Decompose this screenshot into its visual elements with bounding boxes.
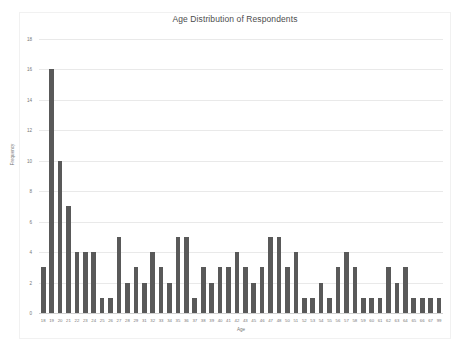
- x-tick-label-62: 62: [384, 316, 392, 325]
- bar-age-51: [294, 252, 299, 313]
- x-tick-label-26: 26: [106, 316, 114, 325]
- y-tick-label-4: 4: [29, 250, 32, 255]
- bar-slot: [435, 39, 443, 313]
- bar-slot: [140, 39, 148, 313]
- bar-age-59: [361, 298, 366, 313]
- bar-slot: [367, 39, 375, 313]
- bar-slot: [207, 39, 215, 313]
- x-tick-label-65: 65: [410, 316, 418, 325]
- bar-age-37: [192, 298, 197, 313]
- x-tick-label-51: 51: [292, 316, 300, 325]
- x-tick-label-55: 55: [325, 316, 333, 325]
- bar-slot: [73, 39, 81, 313]
- bar-series: [39, 39, 443, 313]
- bar-age-66: [420, 298, 425, 313]
- bar-age-19: [49, 69, 54, 313]
- bar-slot: [90, 39, 98, 313]
- x-tick-label-25: 25: [98, 316, 106, 325]
- bar-age-56: [336, 267, 341, 313]
- x-tick-label-56: 56: [334, 316, 342, 325]
- bar-slot: [123, 39, 131, 313]
- bar-slot: [292, 39, 300, 313]
- bar-age-48: [277, 237, 282, 313]
- bar-age-28: [125, 283, 130, 313]
- x-tick-label-34: 34: [165, 316, 173, 325]
- x-tick-label-52: 52: [300, 316, 308, 325]
- x-tick-label-29: 29: [132, 316, 140, 325]
- x-tick-label-19: 19: [47, 316, 55, 325]
- bar-slot: [224, 39, 232, 313]
- bar-age-45: [251, 283, 256, 313]
- x-tick-label-31: 31: [140, 316, 148, 325]
- bar-age-46: [260, 267, 265, 313]
- bar-age-42: [235, 252, 240, 313]
- x-tick-label-59: 59: [359, 316, 367, 325]
- bar-age-61: [378, 298, 383, 313]
- bar-slot: [283, 39, 291, 313]
- bar-age-52: [302, 298, 307, 313]
- bar-slot: [384, 39, 392, 313]
- x-axis-title: Age: [39, 327, 443, 332]
- bar-age-41: [226, 267, 231, 313]
- bar-slot: [199, 39, 207, 313]
- bar-age-99: [437, 298, 442, 313]
- x-tick-label-64: 64: [401, 316, 409, 325]
- plot-area: [39, 39, 443, 313]
- bar-age-31: [142, 283, 147, 313]
- x-tick-label-28: 28: [123, 316, 131, 325]
- x-tick-label-53: 53: [309, 316, 317, 325]
- y-tick-label-14: 14: [27, 97, 32, 102]
- x-tick-label-21: 21: [64, 316, 72, 325]
- x-tick-label-39: 39: [207, 316, 215, 325]
- bar-age-35: [176, 237, 181, 313]
- bar-age-55: [327, 298, 332, 313]
- bar-age-58: [353, 267, 358, 313]
- x-tick-label-43: 43: [241, 316, 249, 325]
- x-tick-label-46: 46: [258, 316, 266, 325]
- bar-slot: [216, 39, 224, 313]
- bar-age-54: [319, 283, 324, 313]
- x-tick-label-41: 41: [224, 316, 232, 325]
- bar-slot: [275, 39, 283, 313]
- x-tick-label-99: 99: [435, 316, 443, 325]
- x-tick-label-60: 60: [367, 316, 375, 325]
- bar-age-47: [268, 237, 273, 313]
- bar-slot: [376, 39, 384, 313]
- bar-slot: [426, 39, 434, 313]
- bar-slot: [401, 39, 409, 313]
- bar-slot: [132, 39, 140, 313]
- bar-slot: [148, 39, 156, 313]
- bar-age-32: [150, 252, 155, 313]
- bar-slot: [47, 39, 55, 313]
- bar-slot: [157, 39, 165, 313]
- x-tick-label-23: 23: [81, 316, 89, 325]
- x-tick-label-20: 20: [56, 316, 64, 325]
- bar-age-23: [83, 252, 88, 313]
- x-tick-label-37: 37: [191, 316, 199, 325]
- y-tick-label-12: 12: [27, 128, 32, 133]
- x-tick-label-35: 35: [174, 316, 182, 325]
- bar-age-63: [395, 283, 400, 313]
- x-tick-label-38: 38: [199, 316, 207, 325]
- bar-slot: [98, 39, 106, 313]
- bar-age-53: [310, 298, 315, 313]
- x-axis-tick-labels: 1819202122232425262728293132333435363738…: [39, 316, 443, 325]
- x-tick-label-61: 61: [376, 316, 384, 325]
- bar-age-40: [218, 267, 223, 313]
- bar-slot: [233, 39, 241, 313]
- bar-age-25: [100, 298, 105, 313]
- y-axis-title: Frequency: [10, 125, 15, 185]
- bar-age-22: [75, 252, 80, 313]
- x-tick-label-32: 32: [148, 316, 156, 325]
- x-tick-label-42: 42: [233, 316, 241, 325]
- bar-age-36: [184, 237, 189, 313]
- bar-age-64: [403, 267, 408, 313]
- bar-slot: [309, 39, 317, 313]
- bar-slot: [64, 39, 72, 313]
- x-tick-label-33: 33: [157, 316, 165, 325]
- bar-age-43: [243, 267, 248, 313]
- x-tick-label-57: 57: [342, 316, 350, 325]
- bar-slot: [56, 39, 64, 313]
- bar-slot: [393, 39, 401, 313]
- x-tick-label-63: 63: [393, 316, 401, 325]
